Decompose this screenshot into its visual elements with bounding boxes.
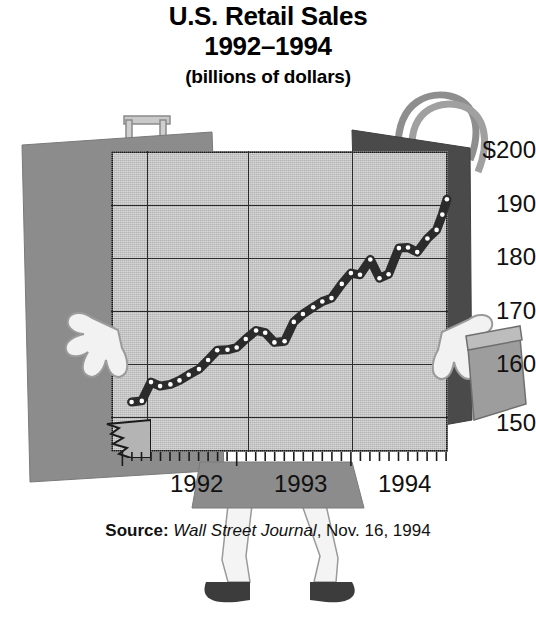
- data-point-marker: [386, 272, 391, 277]
- data-point-marker: [358, 273, 363, 278]
- data-point-marker: [425, 236, 430, 241]
- source-date: , Nov. 16, 1994: [317, 521, 431, 540]
- cartoon-legs: [222, 505, 338, 582]
- source-publication: Wall Street Journal: [173, 521, 316, 540]
- data-point-marker: [329, 296, 334, 301]
- data-point-marker: [272, 340, 277, 345]
- chart-title-line2: 1992–1994: [0, 32, 536, 62]
- data-point-marker: [197, 367, 202, 372]
- data-point-marker: [349, 271, 354, 276]
- data-point-marker: [225, 348, 230, 353]
- x-axis-tick-1994: 1994: [378, 470, 431, 498]
- data-point-marker: [320, 299, 325, 304]
- x-axis-tick-1992: 1992: [170, 470, 223, 498]
- data-point-marker: [311, 305, 316, 310]
- data-point-marker: [149, 380, 154, 385]
- data-point-marker: [440, 212, 445, 217]
- data-point-marker: [129, 400, 134, 405]
- chart-subtitle: (billions of dollars): [0, 66, 536, 88]
- data-point-marker: [301, 312, 306, 317]
- data-point-marker: [206, 358, 211, 363]
- chart-plot-area: [111, 151, 448, 452]
- data-point-marker: [244, 337, 249, 342]
- data-point-marker: [368, 257, 373, 262]
- data-point-marker: [282, 339, 287, 344]
- data-point-marker: [158, 384, 163, 389]
- chart-title-line1: U.S. Retail Sales: [0, 2, 536, 32]
- series-line-stroke: [132, 199, 447, 402]
- data-point-marker: [434, 228, 439, 233]
- monthly-tick-ruler: [111, 452, 448, 468]
- data-point-marker: [234, 345, 239, 350]
- data-point-marker: [406, 245, 411, 250]
- data-point-marker: [377, 276, 382, 281]
- title-block: U.S. Retail Sales 1992–1994 (billions of…: [0, 2, 536, 88]
- data-point-marker: [254, 328, 259, 333]
- data-point-marker: [168, 382, 173, 387]
- retail-sales-line-series: [111, 151, 448, 452]
- source-label: Source:: [105, 521, 168, 540]
- data-point-marker: [140, 399, 145, 404]
- source-note: Source: Wall Street Journal, Nov. 16, 19…: [0, 521, 536, 541]
- data-point-marker: [397, 246, 402, 251]
- cartoon-shoes: [204, 582, 354, 602]
- data-point-marker: [415, 250, 420, 255]
- data-point-marker: [445, 197, 450, 202]
- x-axis-tick-1993: 1993: [274, 470, 327, 498]
- data-point-marker: [340, 282, 345, 287]
- data-point-marker: [215, 348, 220, 353]
- data-point-marker: [292, 320, 297, 325]
- data-point-marker: [263, 330, 268, 335]
- data-point-marker: [177, 378, 182, 383]
- infographic-root: U.S. Retail Sales 1992–1994 (billions of…: [0, 0, 536, 617]
- data-point-marker: [186, 373, 191, 378]
- series-markers: [129, 197, 449, 404]
